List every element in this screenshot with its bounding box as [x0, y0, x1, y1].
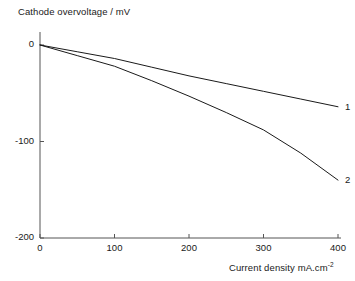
- x-axis-tick-label: 100: [95, 242, 135, 253]
- y-axis-tick-label: 0: [2, 38, 34, 49]
- x-axis-title: Current density mA.cm-2: [229, 262, 334, 273]
- chart-figure: Cathode overvoltage / mV 0100200300400 0…: [0, 0, 355, 281]
- x-axis-tick-label: 400: [318, 242, 355, 253]
- x-axis-title-exponent: -2: [328, 261, 334, 268]
- series-label-2: 2: [345, 174, 350, 185]
- axis-lines: [40, 32, 341, 238]
- series-line-1: [40, 45, 338, 107]
- plot-canvas: [0, 0, 355, 281]
- x-axis-ticks: [40, 234, 338, 238]
- x-axis-title-text: Current density mA.cm: [229, 262, 328, 273]
- series-label-1: 1: [345, 101, 350, 112]
- x-axis-tick-label: 0: [20, 242, 60, 253]
- data-series-group: [40, 45, 338, 180]
- y-axis-tick-label: -100: [2, 135, 34, 146]
- y-axis-ticks: [40, 45, 44, 238]
- x-axis-tick-label: 300: [244, 242, 284, 253]
- series-line-2: [40, 45, 338, 180]
- x-axis-tick-label: 200: [169, 242, 209, 253]
- y-axis-tick-label: -200: [2, 231, 34, 242]
